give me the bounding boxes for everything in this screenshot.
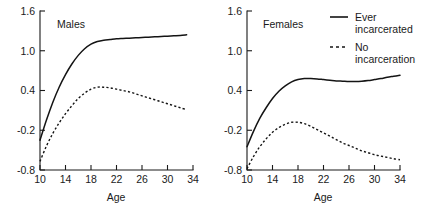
females-ytick-label-0: 1.6 — [227, 5, 242, 17]
males-axes — [40, 11, 193, 170]
females-xtick-label-4: 26 — [343, 173, 355, 185]
females-xtick-label-6: 34 — [394, 173, 406, 185]
males-xtick-label-4: 26 — [136, 173, 148, 185]
females-ytick-label-4: -0.8 — [224, 164, 242, 176]
legend-label-no-line2: incarceration — [355, 53, 415, 65]
females-curve-no-incarceration — [247, 122, 400, 169]
females-ytick-label-1: 1.0 — [227, 45, 242, 57]
females-panel-title: Females — [263, 18, 303, 30]
males-xtick-label-5: 30 — [162, 173, 174, 185]
legend-item-no-incarceration[interactable]: No incarceration — [330, 41, 415, 65]
males-ytick-label-1: 1.0 — [20, 45, 35, 57]
females-xtick-label-0: 10 — [241, 173, 253, 185]
legend-item-ever-incarcerated[interactable]: Ever incarcerated — [330, 11, 413, 35]
males-curve-ever-incarcerated — [40, 35, 187, 140]
females-ytick-label-3: -0.2 — [224, 124, 242, 136]
males-axis-frame — [40, 11, 193, 170]
males-xtick-label-6: 34 — [187, 173, 199, 185]
males-curve-no-incarceration — [40, 87, 187, 161]
legend-label-no-line1: No — [355, 41, 369, 53]
males-xtick-label-0: 10 — [34, 173, 46, 185]
males-xtick-label-1: 14 — [60, 173, 72, 185]
males-panel: 1.6 1.0 0.4 -0.2 -0.8 10 14 18 22 26 30 … — [17, 5, 199, 203]
males-ytick-label-2: 0.4 — [20, 84, 35, 96]
males-ytick-label-0: 1.6 — [20, 5, 35, 17]
legend-label-ever-line2: incarcerated — [355, 23, 413, 35]
females-xtick-label-2: 18 — [292, 173, 304, 185]
females-ytick-label-2: 0.4 — [227, 84, 242, 96]
females-curve-ever-incarcerated — [247, 75, 400, 147]
females-xaxis-title: Age — [314, 191, 333, 203]
legend-label-ever-line1: Ever — [355, 11, 377, 23]
chart-legend: Ever incarcerated No incarceration — [330, 11, 415, 65]
males-ytick-label-3: -0.2 — [17, 124, 35, 136]
males-panel-title: Males — [57, 18, 85, 30]
males-xtick-label-2: 18 — [85, 173, 97, 185]
males-xaxis-title: Age — [107, 191, 126, 203]
females-xtick-label-3: 22 — [318, 173, 330, 185]
females-xtick-label-5: 30 — [369, 173, 381, 185]
females-xtick-label-1: 14 — [267, 173, 279, 185]
figure-container: 1.6 1.0 0.4 -0.2 -0.8 10 14 18 22 26 30 … — [0, 0, 424, 211]
males-ytick-label-4: -0.8 — [17, 164, 35, 176]
males-xtick-label-3: 22 — [111, 173, 123, 185]
chart-svg: 1.6 1.0 0.4 -0.2 -0.8 10 14 18 22 26 30 … — [0, 0, 424, 211]
